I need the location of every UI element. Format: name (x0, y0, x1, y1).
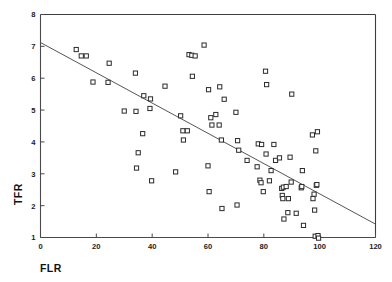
data-point (237, 148, 241, 152)
data-point (136, 151, 140, 155)
data-point (311, 197, 315, 201)
y-tick-label: 3 (31, 170, 35, 179)
data-point (267, 179, 271, 183)
data-point (277, 156, 281, 160)
x-tick-label: 60 (204, 242, 212, 251)
y-tick-label: 2 (31, 202, 35, 211)
y-tick-label: 8 (31, 10, 35, 19)
data-point (235, 203, 239, 207)
data-point (301, 223, 305, 227)
data-point (148, 97, 152, 101)
data-point (207, 190, 211, 194)
data-point (289, 180, 293, 184)
x-tick-label: 40 (148, 242, 156, 251)
data-point (272, 142, 276, 146)
y-tick-label: 5 (31, 106, 36, 115)
data-point (288, 155, 292, 159)
data-point (163, 84, 167, 88)
data-point (106, 80, 110, 84)
data-point (222, 97, 226, 101)
data-point (263, 69, 267, 73)
data-point (214, 112, 218, 116)
data-point (193, 54, 197, 58)
data-point (181, 138, 185, 142)
data-point (300, 184, 304, 188)
data-point (264, 152, 268, 156)
data-point (107, 61, 111, 65)
data-point (259, 181, 263, 185)
regression-line-group (41, 43, 376, 225)
y-tick-label: 7 (31, 42, 35, 51)
x-tick-label: 120 (369, 242, 382, 251)
data-point (310, 133, 314, 137)
data-point (314, 149, 318, 153)
data-point (265, 82, 269, 86)
data-point (206, 164, 210, 168)
scatter-plot-figure: 12345678 020406080100120 TFR FLR (0, 0, 392, 282)
data-point (217, 123, 221, 127)
plot-frame (41, 15, 376, 238)
data-point (210, 123, 214, 127)
data-point (261, 190, 265, 194)
data-point (286, 197, 290, 201)
data-point (300, 169, 304, 173)
data-point (235, 139, 239, 143)
x-axis-ticks: 020406080100120 (38, 234, 381, 251)
data-point (134, 166, 138, 170)
data-point (315, 130, 319, 134)
data-point (206, 88, 210, 92)
data-point (79, 54, 83, 58)
data-point (282, 217, 286, 221)
data-point (185, 129, 189, 133)
y-axis-title: TFR (12, 183, 24, 205)
data-point (74, 47, 78, 51)
data-point (190, 74, 194, 78)
x-axis-title: FLR (40, 262, 62, 274)
data-point (281, 197, 285, 201)
data-point (234, 110, 238, 114)
data-point (255, 165, 259, 169)
data-point (312, 192, 316, 196)
x-tick-label: 80 (260, 242, 268, 251)
data-point (269, 169, 273, 173)
data-point (245, 158, 249, 162)
data-point (290, 92, 294, 96)
regression-line (41, 43, 376, 225)
x-tick-label: 20 (92, 242, 100, 251)
data-point (122, 109, 126, 113)
data-point (141, 132, 145, 136)
data-point (133, 71, 137, 75)
data-point (209, 116, 213, 120)
x-tick-label: 0 (38, 242, 42, 251)
data-point (174, 170, 178, 174)
x-tick-label: 100 (313, 242, 326, 251)
data-point (148, 106, 152, 110)
data-point (284, 184, 288, 188)
data-point (220, 206, 224, 210)
y-axis-ticks: 12345678 (31, 10, 44, 242)
plot-canvas: 12345678 020406080100120 TFR FLR (0, 0, 392, 282)
data-point (316, 236, 320, 240)
data-point (150, 179, 154, 183)
data-point (218, 85, 222, 89)
data-point (142, 94, 146, 98)
data-point (134, 109, 138, 113)
y-tick-label: 4 (31, 138, 36, 147)
data-point (84, 54, 88, 58)
data-point-group (74, 43, 321, 240)
data-point (181, 129, 185, 133)
data-point (313, 208, 317, 212)
data-point (286, 211, 290, 215)
data-point (91, 80, 95, 84)
data-point (260, 142, 264, 146)
data-point (315, 183, 319, 187)
data-point (219, 138, 223, 142)
data-point (202, 43, 206, 47)
data-point (179, 114, 183, 118)
data-point (294, 211, 298, 215)
y-tick-label: 6 (31, 74, 35, 83)
y-tick-label: 1 (31, 233, 36, 242)
